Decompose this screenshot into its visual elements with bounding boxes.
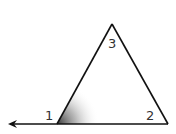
triangle-diagram: 1 2 3 (0, 0, 176, 134)
triangle-right-side (112, 24, 168, 124)
angle-1-label: 1 (45, 108, 53, 123)
angle-2-label: 2 (146, 108, 154, 123)
angle-3-label: 3 (108, 36, 116, 51)
